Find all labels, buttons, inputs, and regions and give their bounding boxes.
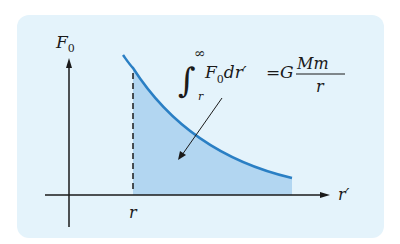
equation: ∫ r ∞ F0dr′ = G Mm r bbox=[178, 45, 345, 103]
constant-g: G bbox=[280, 62, 294, 82]
r-marker-label: r bbox=[129, 203, 138, 222]
y-axis-arrowhead bbox=[66, 58, 72, 68]
integral-sign: ∫ bbox=[178, 60, 196, 100]
x-axis-label: r′ bbox=[338, 185, 350, 204]
integrand: F0dr′ bbox=[204, 62, 247, 86]
y-axis-label: F0 bbox=[55, 32, 75, 55]
integral-upper-limit: ∞ bbox=[194, 45, 206, 61]
equals-sign: = bbox=[266, 62, 280, 82]
force-integral-diagram: F0 r r′ ∫ r ∞ F0dr′ = G Mm r bbox=[0, 0, 400, 244]
fraction-numerator: Mm bbox=[296, 54, 329, 73]
integral-lower-limit: r bbox=[198, 90, 204, 103]
fraction-denominator: r bbox=[316, 77, 325, 96]
shaded-area bbox=[133, 68, 292, 195]
x-axis-arrowhead bbox=[320, 192, 330, 198]
